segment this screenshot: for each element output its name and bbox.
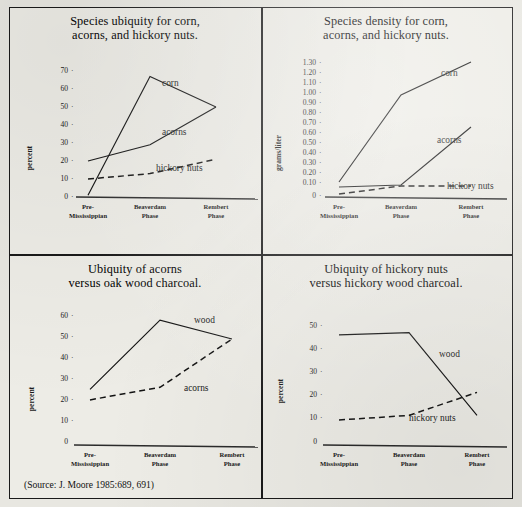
y-tick-dot: · xyxy=(71,353,74,362)
plot-species-ubiquity: percent 70 · 60 · 50 · 40 · 30 · 20 · 10… xyxy=(10,43,260,243)
panel-title-line-2: acorns, and hickory nuts. xyxy=(10,28,260,42)
y-tick-label: 0.50 xyxy=(303,138,316,147)
y-tick-label: 0.80 xyxy=(303,108,316,117)
y-tick-dot: · xyxy=(319,168,322,177)
y-axis-title: percent xyxy=(27,386,36,411)
y-tick-dot: · xyxy=(319,128,322,137)
y-tick-label: 40 xyxy=(309,344,317,353)
y-tick-label: 10 xyxy=(60,416,68,425)
y-tick-dot: · xyxy=(71,102,74,111)
y-tick-label: 0.70 xyxy=(303,118,316,127)
x-category-label: Rembert xyxy=(465,451,491,458)
y-tick-dot: · xyxy=(319,88,322,97)
x-category-label: Phase xyxy=(142,212,159,219)
y-axis-title: percent xyxy=(25,145,34,170)
y-tick-label: 50 xyxy=(60,332,68,341)
panel-title-line-1: Species ubiquity for corn, xyxy=(70,14,200,28)
y-tick-label: 0.10 xyxy=(303,178,316,187)
y-tick-dot: · xyxy=(71,156,74,165)
series-line-acorns xyxy=(90,339,232,400)
panel-title-species-density: Species density for corn, acorns, and hi… xyxy=(261,8,511,43)
y-tick-label: 40 xyxy=(60,353,68,362)
series-line-wood xyxy=(90,320,232,389)
y-tick-label: 20 xyxy=(309,390,317,399)
y-tick-dot: · xyxy=(71,174,74,183)
panel-title-species-ubiquity: Species ubiquity for corn, acorns, and h… xyxy=(10,8,260,43)
x-axis-line xyxy=(323,445,507,447)
x-category-label: Rembert xyxy=(204,203,230,210)
x-axis-line xyxy=(74,445,258,447)
y-tick-dot: · xyxy=(71,311,74,320)
x-category-label: Mississippian xyxy=(320,212,358,219)
x-category-label: Pre- xyxy=(333,451,345,458)
series-label-hickory-nuts: hickory nuts xyxy=(409,413,456,423)
plot-acorns-vs-oak-charcoal: percent 60 · 50 · 40 · 30 · 20 · 10 · 0 xyxy=(10,291,260,481)
x-category-label: Phase xyxy=(224,460,241,467)
y-tick-label: 0 xyxy=(313,437,317,446)
series-line-wood xyxy=(339,332,477,415)
y-tick-dot: · xyxy=(319,178,322,187)
y-tick-label: 10 xyxy=(60,174,68,183)
x-category-label: Phase xyxy=(401,460,418,467)
y-tick-label: 0 xyxy=(64,192,68,201)
y-tick-label: 30 xyxy=(60,138,68,147)
series-label-corn: corn xyxy=(162,78,179,88)
y-tick-dot: · xyxy=(71,332,74,341)
x-category-label: Pre- xyxy=(82,203,94,210)
y-tick-dot: · xyxy=(319,138,322,147)
x-category-label: Phase xyxy=(469,460,486,467)
y-tick-dot: · xyxy=(71,374,74,383)
y-tick-label: 50 xyxy=(60,102,68,111)
y-axis-title: percent xyxy=(276,378,285,403)
series-line-corn xyxy=(339,62,471,182)
panel-title-line-1: Species density for corn, xyxy=(324,14,448,28)
plot-hickory-vs-hickory-charcoal: percent 50 · 40 · 30 · 20 · 10 · 0 xyxy=(261,291,511,481)
y-tick-label: 0.40 xyxy=(303,148,316,157)
y-tick-label: 1.30 xyxy=(303,58,316,67)
y-tick-label: 1.00 xyxy=(303,88,316,97)
panel-title-acorns-vs-oak-charcoal: Ubiquity of acorns versus oak wood charc… xyxy=(10,256,260,291)
x-category-label: Phase xyxy=(208,212,225,219)
series-label-hickory-nuts: hickory nuts xyxy=(156,163,203,173)
x-category-label: Beaverdam xyxy=(385,203,418,210)
y-tick-label: 60 xyxy=(60,84,68,93)
x-category-label: Phase xyxy=(463,212,480,219)
panel-title-line-1: Ubiquity of hickory nuts xyxy=(324,262,448,276)
y-tick-dot: · xyxy=(320,344,323,353)
x-category-label: Rembert xyxy=(220,451,246,458)
panel-title-hickory-vs-hickory-charcoal: Ubiquity of hickory nuts versus hickory … xyxy=(261,256,511,291)
y-tick-dot: · xyxy=(319,98,322,107)
y-tick-dot: · xyxy=(71,66,74,75)
figure-page: Species ubiquity for corn, acorns, and h… xyxy=(0,0,522,507)
series-label-wood: wood xyxy=(194,315,215,325)
series-line-corn xyxy=(88,76,216,195)
series-label-wood: wood xyxy=(439,349,460,359)
y-tick-label: 30 xyxy=(309,367,317,376)
x-category-label: Beaverdam xyxy=(393,451,426,458)
x-axis-line xyxy=(76,197,258,199)
y-tick-label: 20 xyxy=(60,395,68,404)
y-tick-label: 20 xyxy=(60,156,68,165)
y-tick-label: 0.30 xyxy=(303,158,316,167)
y-axis-title: grams/liter xyxy=(274,134,283,170)
y-tick-dot: · xyxy=(320,321,323,330)
series-label-acorns: acorns xyxy=(184,383,209,393)
y-tick-label: 30 xyxy=(60,374,68,383)
x-category-label: Pre- xyxy=(84,451,96,458)
y-tick-dot: · xyxy=(71,416,74,425)
series-line-acorns xyxy=(88,107,216,161)
y-tick-dot: · xyxy=(320,390,323,399)
panel-species-ubiquity: Species ubiquity for corn, acorns, and h… xyxy=(10,8,260,254)
panel-species-density: Species density for corn, acorns, and hi… xyxy=(261,8,511,254)
y-tick-dot: · xyxy=(319,158,322,167)
x-category-label: Beaverdam xyxy=(134,203,167,210)
plot-species-density: grams/liter 1.30 · 1.20 · 1.10 · 1.00 · … xyxy=(261,43,511,243)
series-label-acorns: acorns xyxy=(162,127,187,137)
y-tick-dot: · xyxy=(319,191,322,200)
figure-frame: Species ubiquity for corn, acorns, and h… xyxy=(9,7,513,499)
x-axis-line xyxy=(325,197,507,199)
x-category-label: Phase xyxy=(393,212,410,219)
series-label-hickory-nuts: hickory nuts xyxy=(447,181,494,191)
panel-title-line-2: acorns, and hickory nuts. xyxy=(261,28,511,42)
y-tick-label: 0.60 xyxy=(303,128,316,137)
